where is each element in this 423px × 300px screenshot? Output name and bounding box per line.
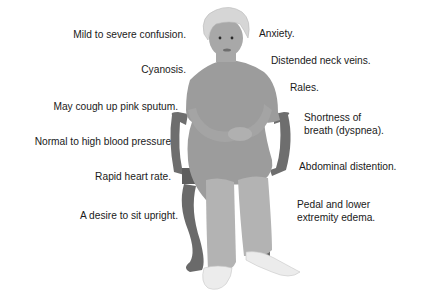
right-shoe	[246, 252, 300, 276]
left-leg	[206, 178, 236, 272]
chair-left-arm	[170, 112, 190, 176]
label-dyspnea-line1: Shortness of	[304, 111, 361, 124]
right-leg	[238, 176, 272, 256]
seated-woman-illustration	[160, 0, 300, 300]
left-shoe	[203, 266, 232, 289]
label-abdominal-distention: Abdominal distention.	[299, 160, 396, 173]
left-eye	[219, 37, 222, 40]
label-blood-pressure: Normal to high blood pressure.	[35, 135, 174, 148]
chair-leg-left	[182, 184, 204, 272]
label-dyspnea-line2: breath (dyspnea).	[304, 124, 384, 137]
label-edema-line1: Pedal and lower	[297, 198, 370, 211]
mouth	[223, 48, 231, 51]
hands	[228, 127, 252, 141]
right-eye	[231, 37, 234, 40]
label-edema-line2: extremity edema.	[297, 211, 375, 224]
